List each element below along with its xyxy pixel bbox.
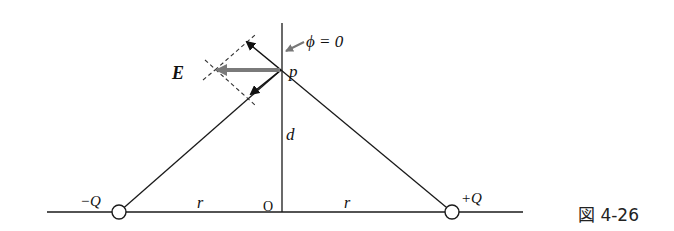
pos-charge-icon	[445, 205, 459, 219]
diagram-canvas: ϕ = 0 p E d O r r −Q +Q 図 4-26	[0, 0, 674, 231]
neg-charge-label: −Q	[80, 193, 101, 209]
phi-pointer-arrow	[286, 42, 304, 51]
origin-label: O	[263, 199, 273, 214]
line-neg-charge-to-p	[119, 70, 281, 212]
distance-d-label: d	[286, 125, 295, 144]
field-component-arrow-down	[251, 70, 281, 94]
r-right-label: r	[344, 194, 351, 211]
point-p-label: p	[288, 62, 298, 81]
dashed-construction-line	[215, 35, 255, 70]
figure-caption: 図 4-26	[578, 205, 639, 225]
dashed-construction-line	[203, 70, 215, 80]
line-pos-charge-to-p	[281, 70, 452, 212]
neg-charge-icon	[112, 205, 126, 219]
field-component-arrow-up	[247, 42, 281, 70]
dashed-construction-line	[205, 60, 255, 105]
r-left-label: r	[197, 194, 204, 211]
pos-charge-label: +Q	[461, 190, 482, 206]
phi-label: ϕ = 0	[306, 32, 344, 51]
field-e-label: E	[171, 63, 184, 83]
